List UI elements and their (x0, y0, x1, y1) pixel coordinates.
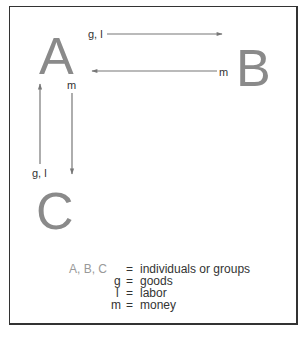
legend-key: m (111, 298, 121, 312)
legend-equals: = (126, 298, 133, 312)
label-b-to-a: m (219, 67, 228, 78)
label-c-to-a: g, l (32, 168, 47, 179)
legend-row: m = money (0, 298, 306, 312)
legend-definition: money (140, 298, 176, 312)
label-a-to-b: g, l (88, 29, 103, 40)
label-a-to-c: m (67, 80, 76, 91)
